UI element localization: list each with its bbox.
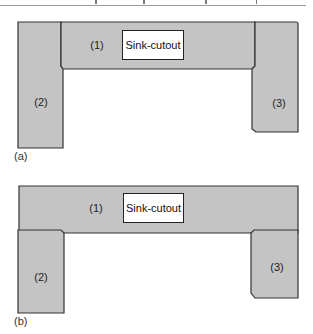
piece-3-shape xyxy=(252,22,298,132)
sink-cutout: Sink-cutout xyxy=(123,193,184,223)
diagram-b-shapes xyxy=(0,164,313,334)
piece-3-label: (3) xyxy=(270,261,283,273)
diagram-a-shapes xyxy=(0,0,313,164)
diagram-b: Sink-cutout (1) (2) (3) (b) xyxy=(0,164,313,328)
piece-2-label: (2) xyxy=(34,271,47,283)
caption-b: (b) xyxy=(14,315,27,327)
piece-1-label: (1) xyxy=(89,202,102,214)
caption-a: (a) xyxy=(14,150,27,162)
piece-2-shape xyxy=(18,22,63,148)
sink-cutout-label: Sink-cutout xyxy=(125,39,180,51)
piece-2-label: (2) xyxy=(34,96,47,108)
piece-3-label: (3) xyxy=(272,97,285,109)
diagram-a: Sink-cutout (1) (2) (3) (a) xyxy=(0,0,313,164)
sink-cutout: Sink-cutout xyxy=(122,30,184,60)
piece-1-label: (1) xyxy=(90,39,103,51)
sink-cutout-label: Sink-cutout xyxy=(126,202,181,214)
